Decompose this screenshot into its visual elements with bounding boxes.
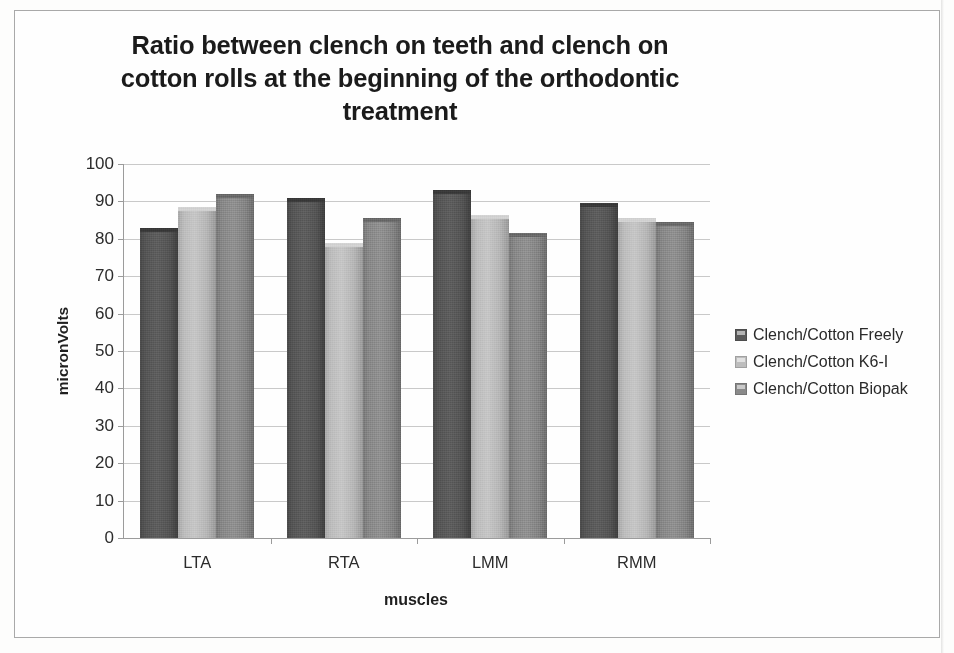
- bar-rta-series-1[interactable]: [287, 198, 325, 538]
- bar-lmm-series-1[interactable]: [433, 190, 471, 538]
- chart-page: Ratio between clench on teeth and clench…: [0, 0, 954, 653]
- y-axis-tick: [118, 463, 124, 464]
- chart-title: Ratio between clench on teeth and clench…: [85, 29, 715, 128]
- y-axis-title: micronVolts: [54, 307, 72, 395]
- bar-body: [656, 226, 694, 538]
- chart-title-line-3: treatment: [85, 95, 715, 128]
- bar-body: [216, 198, 254, 538]
- x-axis-category-label-lta: LTA: [183, 553, 211, 572]
- y-axis-tick: [118, 426, 124, 427]
- bar-group-lmm: [433, 164, 547, 538]
- bar-lta-series-2[interactable]: [178, 207, 216, 538]
- y-axis-tick: [118, 164, 124, 165]
- y-axis-label: 0: [105, 528, 114, 548]
- bar-body: [363, 222, 401, 538]
- bar-rta-series-2[interactable]: [325, 243, 363, 538]
- bar-rmm-series-1[interactable]: [580, 203, 618, 538]
- bar-rta-series-3[interactable]: [363, 218, 401, 538]
- bar-body: [140, 232, 178, 538]
- y-axis-label: 90: [95, 191, 114, 211]
- bar-body: [433, 194, 471, 538]
- y-axis-tick: [118, 351, 124, 352]
- y-axis-label: 50: [95, 341, 114, 361]
- y-axis-label: 80: [95, 229, 114, 249]
- y-axis-tick: [118, 276, 124, 277]
- chart-title-line-2: cotton rolls at the beginning of the ort…: [85, 62, 715, 95]
- bar-group-lta: [140, 164, 254, 538]
- bar-body: [178, 211, 216, 538]
- y-axis-tick: [118, 239, 124, 240]
- x-axis-category-label-rmm: RMM: [617, 553, 656, 572]
- x-axis-tick: [564, 538, 565, 544]
- bar-lta-series-1[interactable]: [140, 228, 178, 538]
- page-frame: Ratio between clench on teeth and clench…: [14, 10, 940, 638]
- bar-lmm-series-3[interactable]: [509, 233, 547, 538]
- y-axis-label: 70: [95, 266, 114, 286]
- legend-label: Clench/Cotton K6-I: [753, 353, 888, 371]
- y-axis-label: 40: [95, 378, 114, 398]
- bar-body: [509, 237, 547, 538]
- plot-area: 0102030405060708090100LTARTALMMRMM: [123, 164, 710, 539]
- y-axis-label: 100: [86, 154, 114, 174]
- x-axis-title: muscles: [123, 591, 709, 609]
- legend-label: Clench/Cotton Biopak: [753, 380, 908, 398]
- y-axis-tick: [118, 388, 124, 389]
- legend-item-1[interactable]: Clench/Cotton Freely: [735, 323, 949, 347]
- bar-body: [287, 202, 325, 538]
- bar-group-rmm: [580, 164, 694, 538]
- x-axis-category-label-lmm: LMM: [472, 553, 509, 572]
- y-axis-tick: [118, 201, 124, 202]
- scan-artifact: [941, 0, 944, 653]
- y-axis-label: 30: [95, 416, 114, 436]
- bar-body: [618, 222, 656, 538]
- x-axis-tick: [271, 538, 272, 544]
- bar-rmm-series-3[interactable]: [656, 222, 694, 538]
- bar-lmm-series-2[interactable]: [471, 215, 509, 539]
- legend-item-3[interactable]: Clench/Cotton Biopak: [735, 377, 949, 401]
- y-axis-label: 60: [95, 304, 114, 324]
- bar-group-rta: [287, 164, 401, 538]
- bar-lta-series-3[interactable]: [216, 194, 254, 538]
- bar-body: [471, 219, 509, 539]
- y-axis-tick: [118, 501, 124, 502]
- bar-rmm-series-2[interactable]: [618, 218, 656, 538]
- chart-legend: Clench/Cotton FreelyClench/Cotton K6-ICl…: [735, 323, 949, 404]
- x-axis-tick: [710, 538, 711, 544]
- y-axis-label: 10: [95, 491, 114, 511]
- y-axis-tick: [118, 314, 124, 315]
- x-axis-tick: [417, 538, 418, 544]
- legend-swatch-icon: [735, 356, 747, 368]
- chart-title-line-1: Ratio between clench on teeth and clench…: [85, 29, 715, 62]
- legend-item-2[interactable]: Clench/Cotton K6-I: [735, 350, 949, 374]
- bar-body: [580, 207, 618, 538]
- legend-label: Clench/Cotton Freely: [753, 326, 903, 344]
- legend-swatch-icon: [735, 383, 747, 395]
- y-axis-tick: [118, 538, 124, 539]
- legend-swatch-icon: [735, 329, 747, 341]
- x-axis-category-label-rta: RTA: [328, 553, 359, 572]
- y-axis-label: 20: [95, 453, 114, 473]
- bar-body: [325, 247, 363, 538]
